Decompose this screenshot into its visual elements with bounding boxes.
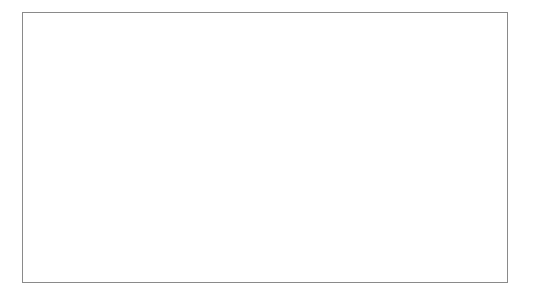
figure-frame [22, 12, 508, 283]
chart-container: 0102030405060708090100010020030040050060… [0, 0, 533, 295]
